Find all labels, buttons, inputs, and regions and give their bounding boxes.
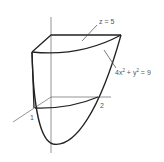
solid-outline: [32, 35, 121, 144]
top-face-back-edges: [32, 35, 121, 52]
x-intercept-label: 1: [30, 114, 34, 121]
cylinder-equation-label: 4x2 + y2 = 9: [115, 68, 151, 77]
paraboloid-profile: [32, 35, 121, 144]
base-cross-section: [35, 97, 98, 108]
top-face-front-curve: [32, 35, 121, 53]
z5-leader: [82, 25, 97, 41]
top-plane-label: z = 5: [99, 18, 114, 25]
y-intercept-label: 2: [100, 102, 104, 109]
axes: [13, 17, 111, 153]
solid-diagram: z = 5 4x2 + y2 = 9 1 2: [0, 0, 164, 162]
